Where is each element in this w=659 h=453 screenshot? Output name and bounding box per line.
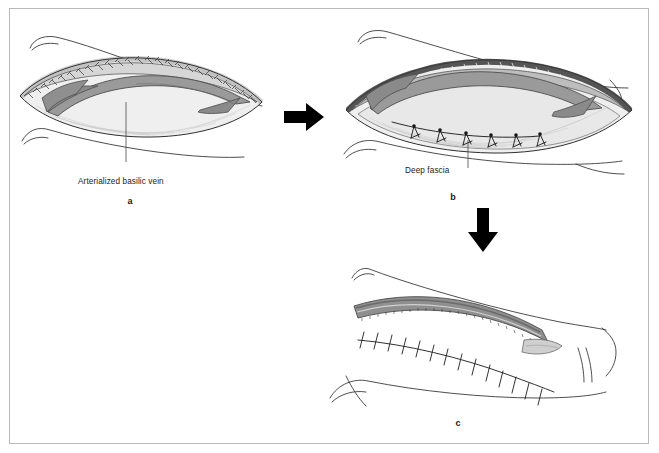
panel-letter-b: b — [433, 192, 473, 202]
panel-c-skin-closure — [310, 248, 640, 413]
panel-a-exposed-vein — [14, 26, 276, 176]
arrow-a-to-b — [282, 100, 326, 134]
arm-contour-c — [330, 268, 616, 406]
figure-root: Arterialized basilic vein a — [0, 0, 659, 453]
annotation-arterialized-basilic-vein: Arterialized basilic vein — [78, 177, 164, 186]
superficialized-vein-c — [354, 297, 562, 354]
vein-edge-ticks-c — [362, 308, 539, 345]
panel-letter-c: c — [438, 418, 478, 428]
annotation-deep-fascia: Deep fascia — [405, 166, 449, 175]
panel-letter-a: a — [110, 196, 150, 206]
arrow-b-to-c — [466, 206, 500, 254]
panel-b-fascia-closure — [340, 22, 640, 182]
